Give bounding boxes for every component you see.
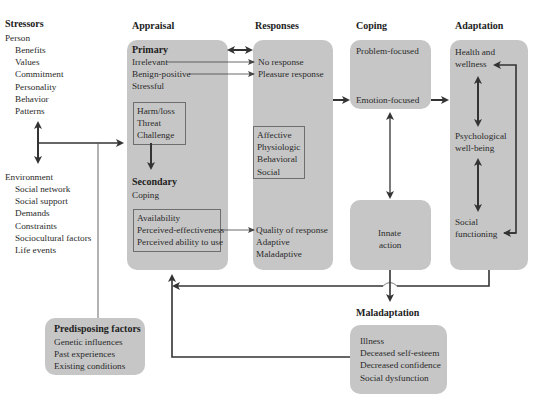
innate-line1: Innate	[378, 227, 401, 239]
person-item: Benefits	[15, 44, 64, 56]
predisposing-item: Past experiences	[54, 348, 125, 360]
response-items: No response Pleasure response	[258, 56, 324, 80]
maladaptation-item: Decreased confidence	[360, 359, 441, 371]
environment-item: Demands	[15, 207, 91, 219]
primary-label: Primary	[132, 44, 168, 55]
environment-item: Constraints	[15, 220, 91, 232]
coping-resource: Perceived ability to use	[137, 236, 224, 248]
adaptation-social: Social functioning	[455, 216, 497, 240]
adaptation-title: Adaptation	[455, 20, 503, 31]
environment-item: Life events	[15, 244, 91, 256]
person-item: Commitment	[15, 68, 64, 80]
primary-items: Irrelevant Benign-positive Stressful	[132, 56, 191, 93]
adaptation-item-line: well-being	[455, 142, 507, 154]
predisposing-items: Genetic influences Past experiences Exis…	[54, 336, 125, 373]
stressful-type: Threat	[137, 117, 175, 129]
adaptation-item-line: wellness	[455, 58, 495, 70]
predisposing-item: Existing conditions	[54, 360, 125, 372]
environment-item: Social support	[15, 195, 91, 207]
secondary-label: Secondary	[132, 176, 177, 187]
maladaptation-item: Deceased self-esteem	[360, 347, 441, 359]
stressful-type: Challenge	[137, 129, 175, 141]
environment-items: Social network Social support Demands Co…	[15, 183, 91, 256]
primary-item-irrelevant: Irrelevant	[132, 56, 191, 68]
response-quality-item: Quality of response	[256, 224, 328, 236]
predisposing-item: Genetic influences	[54, 336, 125, 348]
coping-title: Coping	[356, 20, 387, 31]
person-item: Personality	[15, 81, 64, 93]
adaptation-item-line: Psychological	[455, 130, 507, 142]
appraisal-title: Appraisal	[132, 20, 174, 31]
coping-resource: Perceived-effectiveness	[137, 224, 224, 236]
stressful-type: Harm/loss	[137, 105, 175, 117]
response-types: Affective Physiologic Behavioral Social	[257, 129, 300, 178]
response-item: Pleasure response	[258, 68, 324, 80]
stressors-title: Stressors	[5, 18, 44, 29]
secondary-sub: Coping	[132, 189, 159, 201]
response-item: No response	[258, 56, 324, 68]
response-quality-item: Adaptive	[256, 236, 328, 248]
coping-problem-focused: Problem-focused	[356, 45, 419, 57]
coping-resource: Availability	[137, 212, 224, 224]
coping-emotion-focused: Emotion-focused	[356, 94, 419, 106]
primary-item-stressful: Stressful	[132, 80, 191, 92]
environment-item: Social network	[15, 183, 91, 195]
adaptation-item-line: Health and	[455, 46, 495, 58]
maladaptation-title: Maladaptation	[356, 307, 419, 318]
primary-item-benign: Benign-positive	[132, 68, 191, 80]
maladaptation-item: Illness	[360, 335, 441, 347]
response-type: Physiologic	[257, 141, 300, 153]
environment-item: Sociocultural factors	[15, 232, 91, 244]
innate-line2: action	[379, 239, 401, 251]
person-label: Person	[5, 32, 30, 44]
maladaptation-items: Illness Deceased self-esteem Decreased c…	[360, 335, 441, 384]
adaptation-health: Health and wellness	[455, 46, 495, 70]
person-item: Values	[15, 56, 64, 68]
response-quality: Quality of response Adaptive Maladaptive	[256, 224, 328, 261]
stressful-types: Harm/loss Threat Challenge	[137, 105, 175, 142]
coping-resources: Availability Perceived-effectiveness Per…	[137, 212, 224, 249]
person-items: Benefits Values Commitment Personality B…	[15, 44, 64, 117]
predisposing-title: Predisposing factors	[54, 323, 141, 334]
response-type: Affective	[257, 129, 300, 141]
adaptation-item-line: Social	[455, 216, 497, 228]
environment-label: Environment	[5, 171, 53, 183]
response-type: Behavioral	[257, 153, 300, 165]
response-type: Social	[257, 166, 300, 178]
person-item: Behavior	[15, 93, 64, 105]
maladaptation-item: Social dysfunction	[360, 372, 441, 384]
maladaptation-to-appraisal-feedback	[172, 276, 350, 357]
person-item: Patterns	[15, 105, 64, 117]
responses-title: Responses	[255, 20, 299, 31]
response-quality-item: Maladaptive	[256, 248, 328, 260]
adaptation-item-line: functioning	[455, 228, 497, 240]
adaptation-to-appraisal-feedback	[397, 270, 489, 286]
adaptation-psychological: Psychological well-being	[455, 130, 507, 154]
